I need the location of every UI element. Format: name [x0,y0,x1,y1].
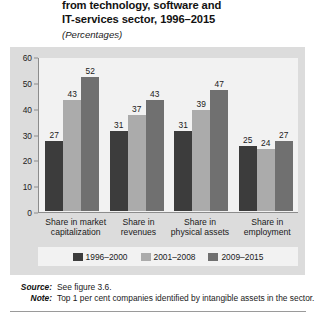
y-axis: 0102030405060 [10,58,38,214]
bar-column[interactable]: 47 [210,58,228,211]
x-axis-category-line: physical assets [171,227,229,237]
bar-value-label: 24 [261,138,270,148]
bar-groups: 274352313743313947252427 [40,58,298,211]
bar-value-label: 31 [114,120,123,130]
x-axis-category-line: capitalization [45,227,106,237]
bar[interactable] [174,131,192,211]
bar-group: 274352 [45,58,99,211]
bar[interactable] [275,141,293,211]
bar[interactable] [192,110,210,211]
bar[interactable] [146,100,164,211]
bar[interactable] [81,77,99,211]
bar[interactable] [45,141,63,211]
legend-label: 1996–2000 [86,252,128,262]
x-axis-category-line: Share in [171,217,229,227]
bar-column[interactable]: 27 [275,58,293,211]
x-axis-category-label: Share inrevenues [121,215,156,245]
figure-title: from technology, software and IT-service… [62,0,306,41]
footnote-source-text: See figure 3.6. [57,282,111,292]
bar-value-label: 37 [132,104,141,114]
y-axis-tick-label: 40 [23,105,32,115]
y-axis-tick-label: 10 [23,182,32,192]
bar-value-label: 25 [243,135,252,145]
x-axis-category-label: Share inphysical assets [171,215,229,245]
footnote-source-label: Source: [10,282,57,292]
bar-column[interactable]: 27 [45,58,63,211]
y-axis-tick-label: 50 [23,79,32,89]
plot-area: 274352313743313947252427 [38,58,298,213]
bar-group: 313743 [110,58,164,211]
bar-value-label: 52 [86,66,95,76]
bar-group: 313947 [174,58,228,211]
legend-item[interactable]: 2009–2015 [208,252,263,262]
bar[interactable] [110,131,128,211]
bar-group: 252427 [239,58,293,211]
bar[interactable] [257,149,275,211]
y-axis-tick-label: 0 [27,208,32,218]
bottom-rule [10,311,306,312]
figure-title-line-1: from technology, software and [62,0,306,12]
legend-label: 2009–2015 [221,252,263,262]
x-axis-category-line: Share in [244,217,291,227]
bar-column[interactable]: 43 [146,58,164,211]
legend-item[interactable]: 2001–2008 [141,252,196,262]
legend-label: 2001–2008 [154,252,196,262]
bar-value-label: 47 [215,79,224,89]
figure-title-line-2: IT-services sector, 1996–2015 [62,12,306,26]
bar-column[interactable]: 31 [110,58,128,211]
bar[interactable] [63,100,81,211]
x-axis-category-label: Share inemployment [244,215,291,245]
footnote-note: Note: Top 1 per cent companies identifie… [10,293,310,303]
x-axis-category-line: revenues [121,227,156,237]
bar-value-label: 39 [197,99,206,109]
chart-panel: 0102030405060 274352313743313947252427 S… [10,47,305,275]
footnote-source: Source: See figure 3.6. [10,282,310,292]
bar-column[interactable]: 25 [239,58,257,211]
y-axis-tick-label: 30 [23,131,32,141]
bar-value-label: 43 [150,89,159,99]
bar-column[interactable]: 52 [81,58,99,211]
legend-swatch-icon [141,253,151,261]
x-axis-category-line: Share in [121,217,156,227]
footnote-note-text: Top 1 per cent companies identified by i… [57,293,314,303]
legend-swatch-icon [73,253,83,261]
figure-subtitle: (Percentages) [62,28,306,41]
y-axis-tick-label: 60 [23,53,32,63]
footnote-note-label: Note: [10,293,57,303]
bar[interactable] [210,90,228,211]
legend-item[interactable]: 1996–2000 [73,252,128,262]
bar[interactable] [239,146,257,211]
x-axis: Share in marketcapitalizationShare inrev… [38,215,298,245]
footnotes: Source: See figure 3.6. Note: Top 1 per … [10,282,310,304]
bar-column[interactable]: 31 [174,58,192,211]
bar-column[interactable]: 39 [192,58,210,211]
x-axis-category-line: Share in market [45,217,106,227]
bar-value-label: 43 [68,89,77,99]
bar-column[interactable]: 43 [63,58,81,211]
chart-legend: 1996–20002001–20082009–2015 [38,247,298,266]
legend-swatch-icon [208,253,218,261]
y-axis-tick-label: 20 [23,156,32,166]
bar-value-label: 31 [179,120,188,130]
bar[interactable] [128,115,146,211]
x-axis-category-line: employment [244,227,291,237]
x-axis-category-label: Share in marketcapitalization [45,215,106,245]
bar-column[interactable]: 24 [257,58,275,211]
bar-value-label: 27 [50,130,59,140]
bar-value-label: 27 [279,130,288,140]
bar-column[interactable]: 37 [128,58,146,211]
